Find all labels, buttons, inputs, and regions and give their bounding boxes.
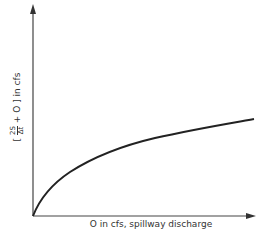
data-curve: [33, 119, 254, 216]
chart-canvas: [0, 0, 262, 236]
x-axis-label: O in cfs, spillway discharge: [0, 219, 262, 229]
y-axis-label: [ 2S Δt + O ] in cfs: [10, 52, 24, 162]
y-axis-arrow-icon: [30, 4, 36, 14]
